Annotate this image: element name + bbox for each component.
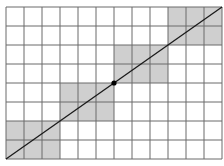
grid-diagram [0,0,224,166]
center-point [111,80,116,85]
